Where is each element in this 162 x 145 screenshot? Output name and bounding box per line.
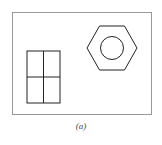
figure-caption: (a): [0, 121, 162, 131]
hexagon-shape: [87, 26, 137, 70]
grid-rectangle: [27, 51, 60, 103]
circle-shape: [101, 37, 124, 60]
figure-frame: [13, 13, 152, 115]
